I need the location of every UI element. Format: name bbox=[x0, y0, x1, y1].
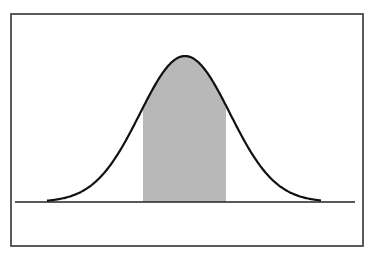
shaded-area bbox=[143, 56, 226, 202]
normal-distribution-diagram bbox=[0, 0, 380, 259]
